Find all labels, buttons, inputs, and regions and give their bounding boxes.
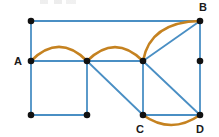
straight-edge-layer xyxy=(31,21,200,115)
graph-edge xyxy=(87,61,143,115)
curved-edge-layer xyxy=(31,21,200,125)
graph-edge xyxy=(143,61,200,115)
graph-arc-edge xyxy=(31,47,87,61)
graph-vertex xyxy=(84,58,91,65)
graph-vertex xyxy=(28,58,35,65)
graph-vertex xyxy=(197,58,204,65)
vertex-label-c: C xyxy=(136,123,144,135)
vertex-label-d: D xyxy=(196,123,204,135)
vertex-label-a: A xyxy=(14,55,22,67)
graph-vertex xyxy=(28,18,35,25)
graph-vertex xyxy=(197,112,204,119)
graph-canvas: ACBD xyxy=(0,0,219,137)
graph-vertex xyxy=(140,112,147,119)
vertex-layer xyxy=(28,18,204,119)
graph-vertex xyxy=(84,112,91,119)
graph-vertex xyxy=(197,18,204,25)
graph-arc-edge xyxy=(87,47,143,61)
graph-vertex xyxy=(28,112,35,119)
vertex-label-b: B xyxy=(199,1,207,13)
graph-arc-edge xyxy=(143,115,200,125)
graph-vertex xyxy=(140,58,147,65)
graph-figure: ACBD xyxy=(0,0,219,137)
